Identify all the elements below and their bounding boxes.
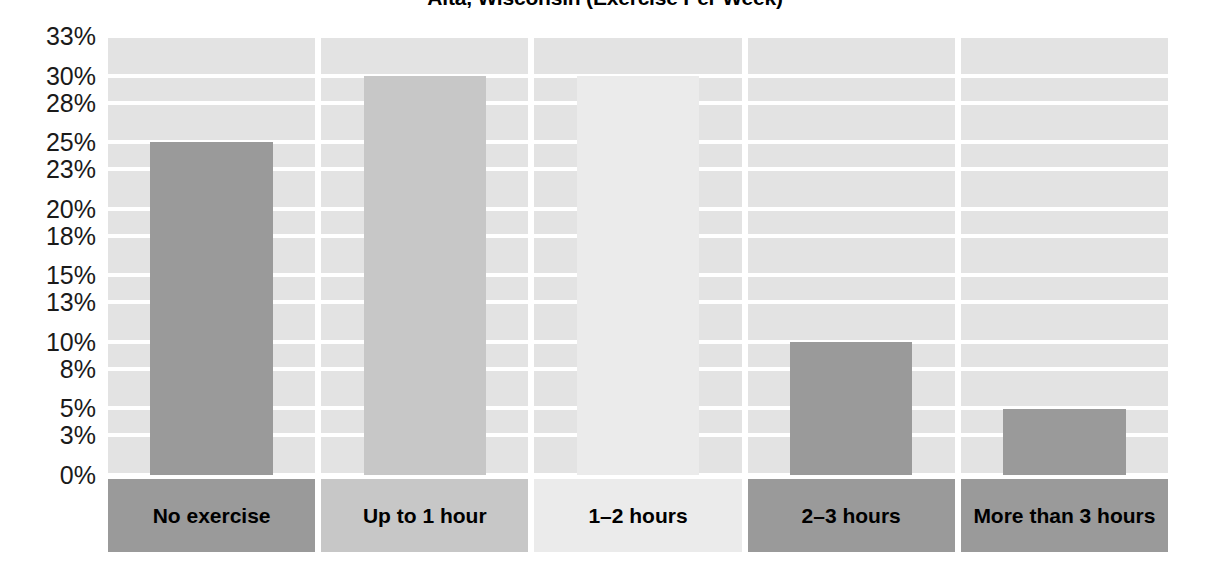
y-axis-tick-label: 33% <box>46 24 96 49</box>
y-axis-tick-label: 5% <box>60 396 96 421</box>
y-axis-tick-label: 3% <box>60 423 96 448</box>
bar <box>1003 409 1125 476</box>
x-axis-category-label: 2–3 hours <box>748 479 955 552</box>
y-axis: 0%3%5%8%10%13%15%18%20%23%25%28%30%33% <box>28 36 102 475</box>
x-axis-category-label: 1–2 hours <box>534 479 741 552</box>
chart-title: Alta, Wisconsin (Exercise Per Week) <box>0 0 1210 10</box>
bar <box>790 342 912 475</box>
gridline <box>108 36 1168 38</box>
plot-area <box>108 36 1168 475</box>
y-axis-tick-label: 23% <box>46 157 96 182</box>
x-axis-category-label: Up to 1 hour <box>321 479 528 552</box>
x-axis-category-label: More than 3 hours <box>961 479 1168 552</box>
y-axis-tick-label: 20% <box>46 196 96 221</box>
y-axis-tick-label: 15% <box>46 263 96 288</box>
y-axis-tick-label: 10% <box>46 329 96 354</box>
x-axis-category-labels: No exerciseUp to 1 hour1–2 hours2–3 hour… <box>108 479 1168 552</box>
bar-chart: Alta, Wisconsin (Exercise Per Week) 0%3%… <box>0 0 1210 583</box>
y-axis-tick-label: 8% <box>60 356 96 381</box>
y-axis-tick-label: 0% <box>60 463 96 488</box>
bar <box>364 76 486 475</box>
y-axis-tick-label: 18% <box>46 223 96 248</box>
y-axis-tick-label: 13% <box>46 290 96 315</box>
bar <box>577 76 699 475</box>
x-axis-category-label: No exercise <box>108 479 315 552</box>
y-axis-tick-label: 28% <box>46 90 96 115</box>
y-axis-tick-label: 30% <box>46 63 96 88</box>
y-axis-tick-label: 25% <box>46 130 96 155</box>
bar <box>150 142 272 475</box>
